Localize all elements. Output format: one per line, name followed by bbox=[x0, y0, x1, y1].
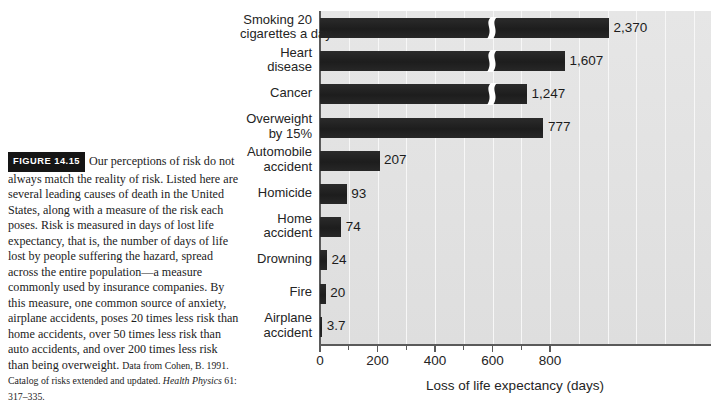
category-label-line: Smoking 20 bbox=[240, 13, 312, 28]
category-label-line: disease bbox=[240, 60, 312, 75]
x-axis-title: Loss of life expectancy (days) bbox=[319, 378, 711, 393]
category-label: Overweightby 15% bbox=[240, 112, 312, 141]
category-label-line: Heart bbox=[240, 46, 312, 61]
x-tick-label-400: 400 bbox=[424, 353, 447, 368]
category-label-line: Airplane bbox=[240, 311, 312, 326]
x-minor-tick-700 bbox=[521, 345, 522, 350]
x-tick-0 bbox=[319, 345, 320, 352]
category-label: Heartdisease bbox=[240, 46, 312, 75]
category-label-line: Overweight bbox=[240, 112, 312, 127]
category-label-line: Drowning bbox=[240, 252, 312, 267]
gridline bbox=[608, 11, 609, 344]
bar bbox=[320, 317, 322, 337]
x-tick-label-0: 0 bbox=[316, 353, 324, 368]
bar bbox=[320, 184, 347, 204]
x-tick-400 bbox=[434, 345, 435, 352]
category-label-line: accident bbox=[240, 160, 312, 175]
category-label-line: accident bbox=[240, 226, 312, 241]
bar bbox=[320, 284, 326, 304]
gridline bbox=[694, 11, 695, 344]
bar-value-label: 777 bbox=[548, 119, 571, 134]
x-tick-label-600: 600 bbox=[481, 353, 504, 368]
category-label: Fire bbox=[240, 285, 312, 300]
bar-value-label: 93 bbox=[351, 186, 366, 201]
category-label-line: accident bbox=[240, 326, 312, 341]
bar bbox=[320, 118, 543, 138]
x-minor-tick-500 bbox=[463, 345, 464, 350]
bar-value-label: 74 bbox=[346, 219, 361, 234]
figure-number-badge: FIGURE 14.15 bbox=[8, 152, 85, 172]
bar bbox=[320, 151, 380, 171]
category-label-line: by 15% bbox=[240, 127, 312, 142]
category-label: Cancer bbox=[240, 86, 312, 101]
category-label-line: Home bbox=[240, 212, 312, 227]
axis-break-symbol bbox=[484, 83, 506, 105]
bar-value-label: 1,247 bbox=[532, 86, 566, 101]
bar-value-label: 24 bbox=[331, 252, 346, 267]
x-tick-label-200: 200 bbox=[366, 353, 389, 368]
bar bbox=[320, 217, 341, 237]
category-label: Airplaneaccident bbox=[240, 311, 312, 340]
gridline bbox=[665, 11, 666, 344]
bar-value-label: 2,370 bbox=[614, 20, 648, 35]
x-tick-label-800: 800 bbox=[539, 353, 562, 368]
axis-break-symbol bbox=[484, 17, 506, 39]
category-label: Automobileaccident bbox=[240, 145, 312, 174]
bar bbox=[320, 51, 565, 71]
figure-caption-text: Our perceptions of risk do not always ma… bbox=[8, 154, 238, 372]
category-label: Drowning bbox=[240, 252, 312, 267]
category-label-line: Homicide bbox=[240, 186, 312, 201]
category-label-line: cigarettes a day bbox=[240, 27, 312, 42]
category-label: Homicide bbox=[240, 186, 312, 201]
axis-break-symbol bbox=[484, 50, 506, 72]
x-tick-800 bbox=[549, 345, 550, 352]
gridline bbox=[636, 11, 637, 344]
bar-value-label: 1,607 bbox=[570, 53, 604, 68]
bar bbox=[320, 18, 609, 38]
category-label-line: Cancer bbox=[240, 86, 312, 101]
figure-source-journal: Health Physics bbox=[163, 375, 222, 386]
bar-value-label: 20 bbox=[330, 285, 345, 300]
bar-value-label: 207 bbox=[384, 152, 407, 167]
bar-value-label: 3.7 bbox=[327, 318, 346, 333]
risk-bar-chart: 0200400600800 2,3701,6071,24777720793742… bbox=[240, 0, 711, 413]
category-label: Homeaccident bbox=[240, 212, 312, 241]
category-label-line: Automobile bbox=[240, 145, 312, 160]
x-tick-200 bbox=[377, 345, 378, 352]
x-minor-tick-300 bbox=[406, 345, 407, 350]
x-minor-tick-100 bbox=[348, 345, 349, 350]
bar bbox=[320, 250, 327, 270]
category-label: Smoking 20cigarettes a day bbox=[240, 13, 312, 42]
x-tick-600 bbox=[492, 345, 493, 352]
figure-caption: FIGURE 14.15Our perceptions of risk do n… bbox=[8, 152, 240, 404]
category-label-line: Fire bbox=[240, 285, 312, 300]
